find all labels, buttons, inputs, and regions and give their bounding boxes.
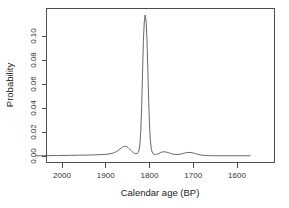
y-axis-tick-labels: 0.000.020.040.060.080.10 [29, 28, 38, 164]
y-tick-label: 0.08 [29, 52, 38, 68]
density-curve [36, 15, 250, 156]
y-tick-label: 0.04 [29, 100, 38, 116]
y-axis-title: Probability [4, 63, 15, 108]
x-tick-label: 1700 [184, 171, 202, 180]
probability-density-plot: 0.000.020.040.060.080.10 200019001800170… [0, 0, 289, 208]
y-tick-label: 0.10 [29, 28, 38, 44]
x-axis-ticks [62, 163, 237, 168]
x-tick-label: 1900 [97, 171, 115, 180]
x-tick-label: 1600 [228, 171, 246, 180]
y-axis-ticks [42, 36, 47, 156]
x-axis-title: Calendar age (BP) [121, 187, 200, 198]
x-tick-label: 1800 [141, 171, 159, 180]
plot-frame [47, 9, 275, 163]
x-tick-label: 2000 [53, 171, 71, 180]
chart-figure: 0.000.020.040.060.080.10 200019001800170… [0, 0, 289, 208]
y-tick-label: 0.02 [29, 124, 38, 140]
y-tick-label: 0.06 [29, 76, 38, 92]
x-axis-tick-labels: 20001900180017001600 [53, 171, 246, 180]
